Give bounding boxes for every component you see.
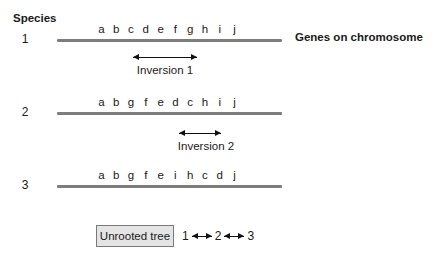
species-number-1: 1 [10,32,40,46]
chromosome-line-3 [57,185,282,188]
unrooted-tree-notation: 1 2 3 [182,228,254,244]
chromosome-line-1 [57,39,282,42]
gene-labels-2: a b g f e d c h i j [94,96,242,109]
double-arrow-icon-tree-1-2 [192,236,212,237]
inversion-2-label: Inversion 2 [171,140,241,153]
chromosome-line-2 [57,112,282,115]
species-row-1: 1 a b c d e f g h i j [0,23,435,53]
species-row-2: 2 a b g f e d c h i j [0,96,435,126]
species-number-2: 2 [10,105,40,119]
tree-node-3: 3 [247,229,254,243]
gene-labels-1: a b c d e f g h i j [94,23,242,36]
unrooted-tree-label: Unrooted tree [100,230,170,242]
inversion-1-label: Inversion 1 [130,64,200,77]
unrooted-tree-box: Unrooted tree [96,225,174,247]
species-number-3: 3 [10,178,40,192]
double-arrow-icon-inversion-2 [179,133,221,134]
species-row-3: 3 a b g f e i h c d j [0,169,435,199]
tree-node-1: 1 [182,229,189,243]
gene-labels-3: a b g f e i h c d j [94,169,242,182]
tree-node-2: 2 [215,229,222,243]
gene-inversion-diagram: Species Genes on chromosome 1 a b c d e … [0,0,435,258]
double-arrow-icon-inversion-1 [133,57,197,58]
double-arrow-icon-tree-2-3 [224,236,244,237]
